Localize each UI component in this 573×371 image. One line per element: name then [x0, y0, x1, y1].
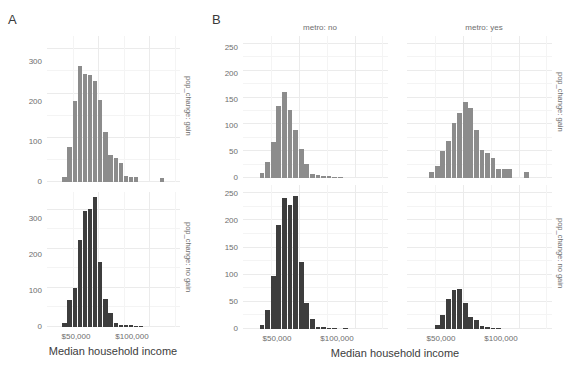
- panel-b-nogain-ytick-150: 150: [212, 244, 238, 252]
- histogram-bar: [73, 288, 77, 327]
- histogram-bar: [468, 317, 473, 329]
- histogram-bars: [47, 36, 180, 182]
- histogram-bar: [134, 177, 138, 182]
- histogram-bar: [119, 325, 123, 327]
- panel-a-nogain-ytick-0: 0: [14, 323, 42, 331]
- panel-a-letter: A: [8, 13, 17, 26]
- histogram-bar: [304, 303, 309, 329]
- panel-b-letter: B: [212, 13, 221, 26]
- histogram-bar: [304, 164, 309, 178]
- histogram-bar: [108, 155, 112, 182]
- histogram-bar: [440, 151, 445, 178]
- histogram-bar: [338, 177, 343, 178]
- histogram-bar: [265, 310, 270, 329]
- histogram-bar: [129, 177, 133, 182]
- panel-b-strip-gain: pop_change: gain: [556, 72, 564, 152]
- histogram-bar: [271, 142, 276, 178]
- panel-b-metro-yes-xtick-50k: $50,000: [413, 335, 469, 343]
- histogram-bar: [119, 163, 123, 182]
- histogram-bar: [114, 323, 118, 327]
- histogram-bar: [299, 149, 304, 178]
- histogram-bar: [485, 327, 490, 329]
- panel-b-gain-ytick-50: 50: [212, 148, 238, 156]
- panel-b-nogain-ytick-100: 100: [212, 271, 238, 279]
- histogram-bars: [47, 192, 180, 327]
- histogram-bar: [480, 326, 485, 329]
- histogram-bars: [407, 185, 552, 329]
- panel-a-gain-ytick-300: 300: [14, 58, 42, 66]
- histogram-bar: [134, 326, 138, 327]
- histogram-bar: [73, 101, 77, 182]
- histogram-bar: [282, 92, 287, 178]
- histogram-bar: [474, 320, 479, 329]
- histogram-bar: [491, 328, 496, 329]
- histogram-bar: [327, 328, 332, 329]
- histogram-bar: [124, 325, 128, 327]
- histogram-bar: [98, 100, 102, 182]
- panel-b-strip-no-gain: pop_change: no gain: [556, 218, 564, 310]
- histogram-bar: [524, 172, 529, 178]
- histogram-bar: [276, 106, 281, 178]
- histogram-bar: [485, 153, 490, 178]
- figure-root: A 300 200 100 0 300 200 100 0 pop_change…: [0, 0, 573, 371]
- panel-a-strip-no-gain: pop_change: no gain: [184, 222, 192, 306]
- panel-a-nogain-ytick-300: 300: [14, 215, 42, 223]
- histogram-bar: [474, 130, 479, 178]
- histogram-bar: [491, 158, 496, 178]
- histogram-bar: [327, 176, 332, 178]
- panel-b-nogain-ytick-0: 0: [212, 325, 238, 333]
- histogram-bar: [446, 299, 451, 329]
- histogram-bar: [310, 319, 315, 329]
- histogram-bar: [288, 110, 293, 178]
- histogram-bar: [67, 147, 71, 182]
- histogram-bar: [463, 102, 468, 178]
- histogram-bar: [78, 240, 82, 327]
- histogram-bar: [160, 178, 164, 182]
- histogram-bar: [265, 162, 270, 178]
- histogram-bar: [343, 328, 348, 329]
- histogram-bar: [103, 299, 107, 327]
- histogram-bar: [332, 328, 337, 329]
- histogram-bar: [288, 205, 293, 329]
- histogram-bar: [260, 173, 265, 178]
- histogram-bar: [139, 326, 143, 327]
- panel-a-xtick-50k: $50,000: [49, 333, 103, 341]
- panel-a-nogain-ytick-100: 100: [14, 287, 42, 295]
- panel-b-nogain-metro-yes-plot: [407, 185, 552, 329]
- histogram-bar: [88, 75, 92, 182]
- panel-b-metro-no-xtick-50k: $50,000: [249, 335, 305, 343]
- histogram-bar: [468, 108, 473, 178]
- histogram-bar: [435, 325, 440, 329]
- panel-b-gain-ytick-150: 150: [212, 96, 238, 104]
- histogram-bar: [507, 169, 512, 178]
- panel-a-nogain-plot: [47, 192, 180, 327]
- histogram-bar: [293, 130, 298, 178]
- panel-a-gain-plot: [47, 36, 180, 182]
- histogram-bar: [67, 300, 71, 327]
- histogram-bar: [98, 262, 102, 327]
- panel-a-nogain-ytick-200: 200: [14, 251, 42, 259]
- histogram-bar: [83, 211, 87, 327]
- histogram-bar: [429, 172, 434, 178]
- histogram-bar: [260, 325, 265, 329]
- histogram-bar: [332, 177, 337, 178]
- panel-a-strip-gain: pop_change: gain: [184, 76, 192, 148]
- histogram-bar: [78, 66, 82, 182]
- panel-a-gain-ytick-200: 200: [14, 98, 42, 106]
- panel-a-gain-ytick-100: 100: [14, 138, 42, 146]
- histogram-bars: [243, 36, 388, 178]
- panel-a-gain-ytick-0: 0: [14, 178, 42, 186]
- panel-b-gain-ytick-0: 0: [212, 174, 238, 182]
- histogram-bar: [293, 196, 298, 329]
- panel-b-gain-ytick-200: 200: [212, 70, 238, 78]
- histogram-bar: [316, 175, 321, 178]
- histogram-bar: [502, 169, 507, 178]
- histogram-bar: [435, 166, 440, 178]
- panel-b-strip-metro-yes: metro: yes: [424, 24, 544, 32]
- histogram-bar: [271, 276, 276, 329]
- histogram-bar: [93, 197, 97, 327]
- histogram-bar: [88, 209, 92, 327]
- panel-b-gain-metro-yes-plot: [407, 36, 552, 178]
- panel-b-strip-metro-no: metro: no: [260, 24, 380, 32]
- panel-b-gain-ytick-100: 100: [212, 122, 238, 130]
